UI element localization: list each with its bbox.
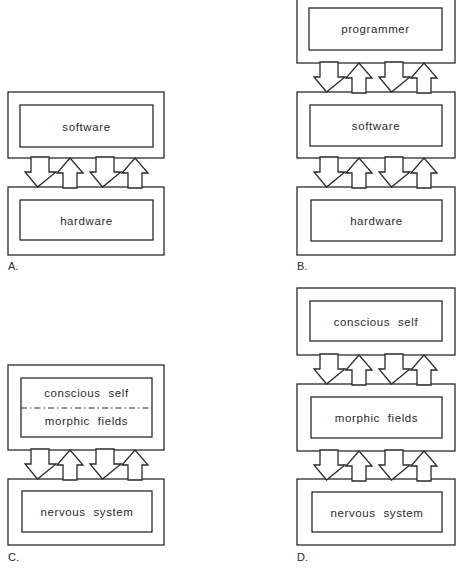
panel-b-hardware-label: hardware (350, 215, 403, 227)
panel-d-lower-interaction-arrows-icon (314, 450, 437, 481)
panel-a: software hardware A. (8, 92, 164, 272)
diagram-canvas: software hardware A. programmer software… (0, 0, 465, 575)
panel-d-caption: D. (297, 551, 308, 563)
panel-d-upper-interaction-arrows-icon (314, 354, 437, 385)
panel-b-software-label: software (352, 120, 400, 132)
panel-b-caption: B. (297, 260, 307, 272)
panel-b-programmer-label: programmer (341, 23, 410, 35)
panel-c-caption: C. (8, 551, 19, 563)
panel-a-software-label: software (62, 121, 110, 133)
panel-d-nervous-system-label: nervous system (331, 507, 424, 519)
panel-b-lower-interaction-arrows-icon (314, 157, 437, 188)
panel-a-interaction-arrows-icon (25, 157, 148, 188)
panel-d-conscious-self-label: conscious self (334, 316, 419, 328)
panel-c-nervous-system-label: nervous system (41, 506, 134, 518)
panel-d-morphic-fields-label: morphic fields (335, 412, 418, 424)
panel-c-interaction-arrows-icon (25, 449, 148, 480)
panel-a-caption: A. (8, 260, 18, 272)
panel-b: programmer software hardware B. (297, 0, 455, 272)
panel-a-hardware-label: hardware (60, 215, 113, 227)
panel-d: conscious self morphic fields nervous sy… (297, 288, 455, 563)
panel-c-conscious-self-label: conscious self (44, 387, 129, 399)
panel-c: conscious self morphic fields nervous sy… (8, 365, 164, 563)
panel-c-morphic-fields-label: morphic fields (45, 415, 128, 427)
panel-b-upper-interaction-arrows-icon (314, 62, 437, 93)
